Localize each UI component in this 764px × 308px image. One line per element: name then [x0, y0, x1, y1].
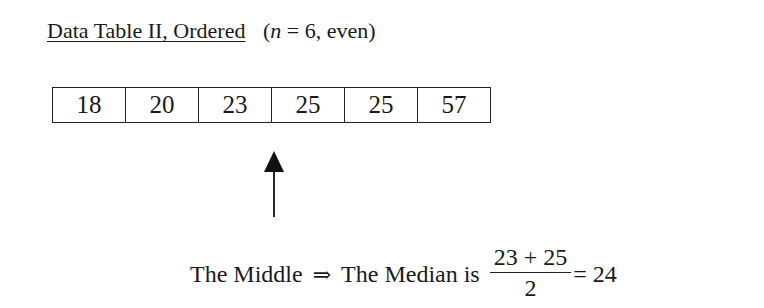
up-arrow-icon [263, 151, 285, 217]
table-title: Data Table II, Ordered (n = 6, even) [47, 18, 376, 44]
middle-label: The Middle [190, 261, 303, 288]
table-cell: 23 [199, 88, 272, 123]
fraction-numerator: 23 + 25 [490, 242, 572, 272]
median-fraction: 23 + 25 2 [490, 242, 572, 303]
table-cell: 57 [418, 88, 491, 123]
table-cell: 20 [126, 88, 199, 123]
median-result: = 24 [573, 261, 617, 288]
table-cell: 25 [272, 88, 345, 123]
median-caption: The Middle ⇒ The Median is 23 + 25 2 = 2… [190, 244, 617, 305]
ordered-data-table: 18 20 23 25 25 57 [52, 87, 491, 123]
title-sample-size: (n = 6, even) [263, 18, 376, 43]
table-cell: 18 [53, 88, 126, 123]
table-cell: 25 [345, 88, 418, 123]
title-label: Data Table II, Ordered [47, 18, 245, 43]
table-row: 18 20 23 25 25 57 [53, 88, 491, 123]
fraction-denominator: 2 [524, 273, 536, 303]
implies-icon: ⇒ [313, 262, 331, 288]
median-label: The Median is [341, 261, 480, 288]
